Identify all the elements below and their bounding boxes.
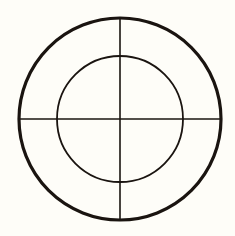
crosshair-diagram: [0, 0, 235, 236]
